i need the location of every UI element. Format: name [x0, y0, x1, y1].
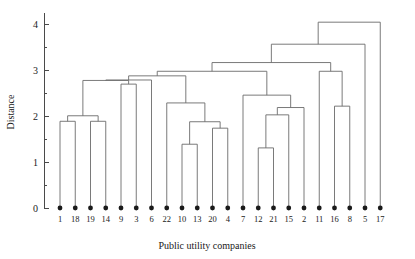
- dendrogram-links: [60, 22, 380, 208]
- leaf-label-21: 21: [269, 214, 278, 224]
- leaf-marker-18: [73, 206, 78, 211]
- leaf-label-11: 11: [315, 214, 323, 224]
- y-tick-label-0: 0: [33, 203, 38, 214]
- leaf-marker-19: [88, 206, 93, 211]
- merge-link-m18: [319, 71, 342, 208]
- dendrogram-figure: 01234 1181914936221013204712211521116851…: [0, 0, 415, 259]
- merge-link-m5: [83, 80, 129, 115]
- leaf-marker-20: [210, 206, 215, 211]
- leaf-label-17: 17: [376, 214, 385, 224]
- leaf-label-7: 7: [241, 214, 245, 224]
- merge-link-m1: [60, 121, 75, 208]
- leaf-marker-17: [378, 206, 383, 211]
- merge-link-m19: [212, 63, 331, 72]
- leaf-marker-8: [347, 206, 352, 211]
- merge-link-m20: [271, 44, 365, 208]
- leaf-labels: 11819149362210132047122115211168517: [58, 214, 385, 224]
- merge-link-m12: [258, 148, 273, 208]
- y-tick-label-2: 2: [33, 111, 38, 122]
- leaf-marker-7: [241, 206, 246, 211]
- y-axis-title: Distance: [5, 94, 16, 130]
- merge-link-m10: [167, 103, 205, 208]
- merge-link-m15: [243, 95, 291, 208]
- leaf-label-20: 20: [208, 214, 217, 224]
- merge-link-m6: [106, 80, 152, 208]
- merge-link-m17: [335, 106, 350, 208]
- leaf-marker-2: [302, 206, 307, 211]
- leaf-label-6: 6: [149, 214, 153, 224]
- leaf-marker-6: [149, 206, 154, 211]
- leaf-label-8: 8: [348, 214, 352, 224]
- merge-link-m16: [157, 71, 267, 95]
- leaf-label-5: 5: [363, 214, 367, 224]
- leaf-label-3: 3: [134, 214, 138, 224]
- leaf-marker-14: [103, 206, 108, 211]
- dendrogram-plot: 01234 1181914936221013204712211521116851…: [0, 0, 415, 259]
- leaf-label-9: 9: [119, 214, 123, 224]
- merge-link-m3: [68, 116, 99, 122]
- y-axis: [44, 13, 49, 208]
- leaf-marker-21: [271, 206, 276, 211]
- x-axis-title: Public utility companies: [158, 240, 255, 251]
- leaf-label-1: 1: [58, 214, 62, 224]
- leaf-marker-15: [286, 206, 291, 211]
- merge-link-m4: [121, 84, 136, 208]
- leaf-label-12: 12: [254, 214, 263, 224]
- leaf-marker-10: [180, 206, 185, 211]
- y-tick-label-3: 3: [33, 65, 38, 76]
- leaf-marker-11: [317, 206, 322, 211]
- leaf-marker-3: [134, 206, 139, 211]
- leaf-marker-1: [58, 206, 63, 211]
- leaf-marker-16: [332, 206, 337, 211]
- leaf-marker-9: [119, 206, 124, 211]
- leaf-markers: [58, 206, 383, 211]
- merge-link-m14: [277, 108, 304, 208]
- merge-link-m7: [182, 144, 197, 208]
- y-tick-label-1: 1: [33, 157, 38, 168]
- merge-link-m2: [91, 121, 106, 208]
- leaf-label-19: 19: [86, 214, 95, 224]
- leaf-marker-5: [363, 206, 368, 211]
- leaf-label-18: 18: [71, 214, 80, 224]
- leaf-label-2: 2: [302, 214, 306, 224]
- leaf-label-13: 13: [193, 214, 202, 224]
- leaf-marker-22: [164, 206, 169, 211]
- merge-link-m9: [190, 122, 221, 144]
- merge-link-m21: [318, 22, 380, 208]
- leaf-label-10: 10: [178, 214, 187, 224]
- leaf-label-22: 22: [163, 214, 172, 224]
- leaf-marker-13: [195, 206, 200, 211]
- leaf-marker-4: [225, 206, 230, 211]
- leaf-label-4: 4: [226, 214, 231, 224]
- leaf-label-14: 14: [102, 214, 111, 224]
- leaf-marker-12: [256, 206, 261, 211]
- leaf-label-16: 16: [330, 214, 339, 224]
- merge-link-m8: [213, 128, 228, 208]
- y-tick-labels: 01234: [33, 19, 38, 214]
- y-tick-label-4: 4: [33, 19, 38, 30]
- leaf-label-15: 15: [285, 214, 294, 224]
- merge-link-m13: [266, 115, 289, 208]
